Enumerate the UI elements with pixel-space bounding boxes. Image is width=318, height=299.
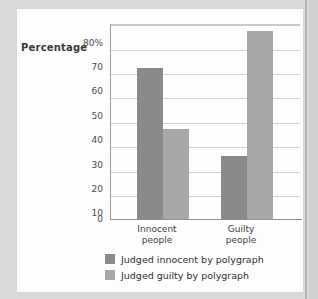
y-tick-label-80: 80%	[63, 38, 103, 48]
bars-layer	[111, 24, 300, 219]
y-tick-label-20: 20	[63, 184, 103, 194]
bar-guilty-judged-guilty[interactable]	[247, 31, 273, 219]
x-category-line-1: Guilty	[201, 224, 281, 235]
x-category-line-2: people	[201, 235, 281, 246]
y-tick-label-40: 40	[63, 135, 103, 145]
x-category-label-innocent-people: Innocent people	[117, 224, 197, 246]
legend-label: Judged innocent by polygraph	[121, 254, 264, 265]
x-axis-line	[110, 219, 302, 220]
legend-item-judged-guilty[interactable]: Judged guilty by polygraph	[105, 268, 264, 282]
x-category-line-1: Innocent	[117, 224, 197, 235]
figure-card: Percentage 80% 70 60 50 40 30 20 10 0	[17, 9, 303, 292]
bar-guilty-judged-innocent[interactable]	[221, 156, 247, 219]
bar-innocent-judged-innocent[interactable]	[137, 68, 163, 219]
y-tick-label-0: 0	[63, 214, 103, 224]
y-tick-label-50: 50	[63, 111, 103, 121]
bar-group-guilty-people	[221, 24, 281, 219]
chart-legend: Judged innocent by polygraph Judged guil…	[105, 252, 264, 284]
bar-group-innocent-people	[137, 24, 197, 219]
bar-chart: Percentage 80% 70 60 50 40 30 20 10 0	[17, 9, 303, 292]
y-tick-label-60: 60	[63, 86, 103, 96]
bar-innocent-judged-guilty[interactable]	[163, 129, 189, 219]
page-edge-line	[305, 0, 307, 299]
legend-swatch-icon-light	[105, 270, 115, 280]
y-tick-label-70: 70	[63, 62, 103, 72]
x-category-label-guilty-people: Guilty people	[201, 224, 281, 246]
page-edge-outer	[309, 0, 318, 299]
figure-page: Percentage 80% 70 60 50 40 30 20 10 0	[0, 0, 318, 299]
legend-label: Judged guilty by polygraph	[121, 270, 249, 281]
y-tick-label-30: 30	[63, 160, 103, 170]
x-category-line-2: people	[117, 235, 197, 246]
legend-swatch-icon-dark	[105, 254, 115, 264]
legend-item-judged-innocent[interactable]: Judged innocent by polygraph	[105, 252, 264, 266]
